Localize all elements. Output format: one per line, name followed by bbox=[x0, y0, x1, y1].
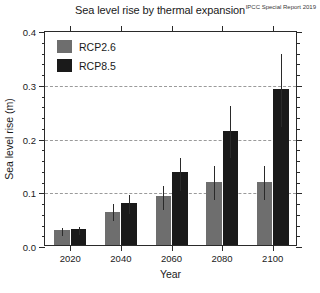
y-axis-right-minor-tick bbox=[296, 204, 300, 205]
y-axis-minor-tick bbox=[42, 118, 46, 119]
y-axis-minor-tick bbox=[42, 172, 46, 173]
chart-figure: Sea level rise by thermal expansion IPCC… bbox=[0, 0, 320, 293]
legend-item-rcp85: RCP8.5 bbox=[57, 59, 116, 72]
x-axis-tick-label: 2020 bbox=[60, 253, 81, 264]
y-axis-right-tick bbox=[296, 86, 302, 87]
y-axis-title-label: Sea level rise (m) bbox=[3, 98, 15, 180]
y-axis-right-tick bbox=[296, 32, 302, 33]
error-bar-rcp85-2100 bbox=[281, 54, 282, 127]
y-axis-tick-label: 0.0 bbox=[23, 242, 36, 253]
y-axis-right-minor-tick bbox=[296, 97, 300, 98]
legend-swatch-rcp26 bbox=[57, 40, 72, 53]
x-axis-tick-label: 2040 bbox=[110, 253, 131, 264]
error-bar-rcp26-2080 bbox=[214, 166, 215, 200]
x-axis-top-tick bbox=[172, 26, 173, 32]
legend-swatch-rcp85 bbox=[57, 59, 72, 72]
y-axis-minor-tick bbox=[42, 107, 46, 108]
y-axis-minor-tick bbox=[42, 183, 46, 184]
error-bar-rcp85-2080 bbox=[230, 106, 231, 158]
y-axis-right-minor-tick bbox=[296, 75, 300, 76]
y-axis-tick-label: 0.3 bbox=[23, 80, 36, 91]
y-axis-minor-tick bbox=[42, 129, 46, 130]
y-axis-minor-tick bbox=[42, 64, 46, 65]
source-annotation: IPCC Special Report 2019 bbox=[246, 4, 316, 10]
legend-label-rcp26: RCP2.6 bbox=[79, 41, 116, 53]
x-axis-top-tick bbox=[70, 26, 71, 32]
legend-label-rcp85: RCP8.5 bbox=[79, 60, 116, 72]
y-axis-minor-tick bbox=[42, 161, 46, 162]
y-axis-minor-tick bbox=[42, 226, 46, 227]
y-axis-minor-tick bbox=[42, 236, 46, 237]
gridline bbox=[45, 140, 296, 141]
x-axis-title: Year bbox=[44, 268, 297, 280]
y-axis-right-tick bbox=[296, 247, 302, 248]
y-axis-minor-tick bbox=[42, 204, 46, 205]
y-axis-minor-tick bbox=[42, 97, 46, 98]
gridline bbox=[45, 86, 296, 87]
error-bar-rcp85-2020 bbox=[79, 227, 80, 236]
x-axis-tick bbox=[121, 245, 122, 251]
y-axis-right-minor-tick bbox=[296, 118, 300, 119]
y-axis-right-minor-tick bbox=[296, 236, 300, 237]
y-axis-right-minor-tick bbox=[296, 161, 300, 162]
x-axis-top-tick bbox=[222, 26, 223, 32]
x-axis-top-tick bbox=[121, 26, 122, 32]
chart-legend: RCP2.6 RCP8.5 bbox=[57, 40, 116, 78]
y-axis-tick-label: 0.4 bbox=[23, 27, 36, 38]
y-axis-right-minor-tick bbox=[296, 43, 300, 44]
y-axis-right-minor-tick bbox=[296, 150, 300, 151]
plot-frame: 0.00.10.20.30.420202040206020802100 RCP2… bbox=[44, 31, 297, 246]
x-axis-tick-label: 2060 bbox=[161, 253, 182, 264]
y-axis-tick bbox=[39, 247, 45, 248]
y-axis-title: Sea level rise (m) bbox=[2, 31, 16, 246]
error-bar-rcp26-2040 bbox=[113, 204, 114, 221]
y-axis-minor-tick bbox=[42, 43, 46, 44]
y-axis-minor-tick bbox=[42, 75, 46, 76]
x-axis-tick bbox=[273, 245, 274, 251]
y-axis-right-minor-tick bbox=[296, 172, 300, 173]
legend-item-rcp26: RCP2.6 bbox=[57, 40, 116, 53]
x-axis-tick bbox=[70, 245, 71, 251]
y-axis-right-tick bbox=[296, 193, 302, 194]
error-bar-rcp85-2060 bbox=[180, 158, 181, 191]
x-axis-tick bbox=[172, 245, 173, 251]
y-axis-right-minor-tick bbox=[296, 183, 300, 184]
y-axis-right-tick bbox=[296, 140, 302, 141]
y-axis-minor-tick bbox=[42, 54, 46, 55]
y-axis-right-minor-tick bbox=[296, 129, 300, 130]
x-axis-top-tick bbox=[273, 26, 274, 32]
x-axis-tick-label: 2080 bbox=[212, 253, 233, 264]
y-axis-tick-label: 0.1 bbox=[23, 188, 36, 199]
y-axis-tick-label: 0.2 bbox=[23, 134, 36, 145]
y-axis-right-minor-tick bbox=[296, 107, 300, 108]
y-axis-right-minor-tick bbox=[296, 64, 300, 65]
y-axis-minor-tick bbox=[42, 150, 46, 151]
error-bar-rcp26-2060 bbox=[163, 186, 164, 210]
x-axis-tick bbox=[222, 245, 223, 251]
x-axis-tick-label: 2100 bbox=[262, 253, 283, 264]
y-axis-tick bbox=[39, 32, 45, 33]
error-bar-rcp85-2040 bbox=[129, 195, 130, 214]
y-axis-right-minor-tick bbox=[296, 54, 300, 55]
error-bar-rcp26-2020 bbox=[62, 228, 63, 237]
y-axis-right-minor-tick bbox=[296, 215, 300, 216]
y-axis-right-minor-tick bbox=[296, 226, 300, 227]
y-axis-minor-tick bbox=[42, 215, 46, 216]
error-bar-rcp26-2100 bbox=[264, 166, 265, 200]
